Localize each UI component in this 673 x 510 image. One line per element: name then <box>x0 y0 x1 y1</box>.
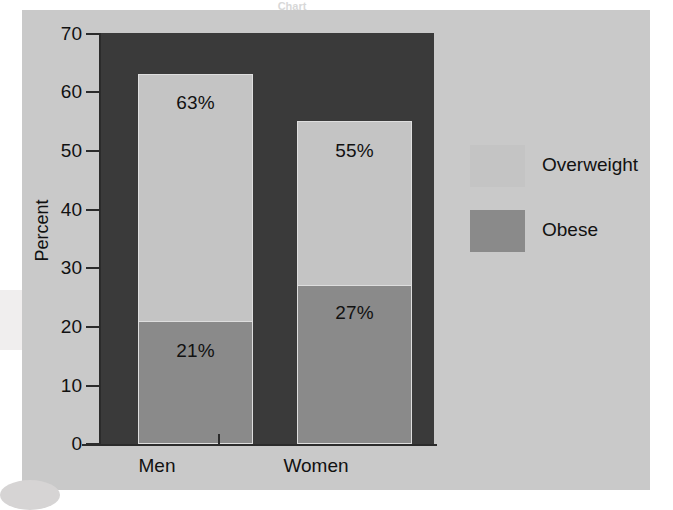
x-category-label-men: Men <box>87 455 227 477</box>
y-axis-title: Percent <box>32 171 53 291</box>
y-tick-mark-60 <box>86 91 100 93</box>
y-tick-mark-40 <box>86 209 100 211</box>
legend-swatch-obese <box>470 210 525 252</box>
x-category-label-women: Women <box>246 455 386 477</box>
y-tick-mark-10 <box>86 385 100 387</box>
data-label-women-obese: 27% <box>297 302 412 324</box>
x-axis-center-tick <box>218 434 220 445</box>
chart-figure-panel: Chart 63% 21% 55% 27% 0 10 20 30 40 <box>22 10 650 490</box>
y-tick-mark-20 <box>86 326 100 328</box>
data-label-women-overweight: 55% <box>297 140 412 162</box>
y-tick-label-10: 10 <box>36 375 82 397</box>
y-tick-label-0: 0 <box>36 433 82 455</box>
plot-area: 63% 21% 55% 27% <box>100 33 434 444</box>
scan-artifact-left <box>0 290 22 350</box>
legend-label-overweight: Overweight <box>542 154 638 176</box>
y-tick-mark-30 <box>86 267 100 269</box>
data-label-men-overweight: 63% <box>138 92 253 114</box>
y-tick-label-20: 20 <box>36 316 82 338</box>
y-axis-line <box>99 33 101 445</box>
clipped-chart-title: Chart <box>202 1 382 12</box>
y-tick-mark-50 <box>86 150 100 152</box>
y-tick-mark-0 <box>86 443 100 445</box>
y-tick-label-60: 60 <box>36 81 82 103</box>
y-tick-label-50: 50 <box>36 140 82 162</box>
legend-label-obese: Obese <box>542 219 598 241</box>
y-tick-label-70: 70 <box>36 23 82 45</box>
y-tick-mark-70 <box>86 33 100 35</box>
x-axis-line <box>82 444 437 446</box>
data-label-men-obese: 21% <box>138 340 253 362</box>
legend-swatch-overweight <box>470 145 525 187</box>
